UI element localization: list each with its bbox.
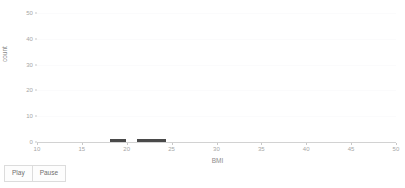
x-tick-mark-10 (37, 143, 38, 145)
x-tick-label-10: 10 (34, 146, 41, 152)
gridline-y-10 (37, 116, 396, 117)
x-tick-mark-50 (396, 143, 397, 145)
x-tick-mark-25 (172, 143, 173, 145)
y-tick-mark-40 (35, 38, 37, 39)
x-tick-label-20: 20 (123, 146, 130, 152)
plot-area (37, 8, 396, 142)
x-tick-label-40: 40 (303, 146, 310, 152)
x-tick-mark-15 (82, 143, 83, 145)
gridline-y-50 (37, 13, 396, 14)
x-tick-label-30: 30 (213, 146, 220, 152)
y-tick-label-40: 40 (26, 36, 33, 42)
playback-controls: Play Pause (4, 165, 66, 182)
x-tick-mark-45 (351, 143, 352, 145)
y-axis: count (0, 0, 37, 160)
x-tick-mark-30 (217, 143, 218, 145)
y-tick-label-30: 30 (26, 62, 33, 68)
play-button[interactable]: Play (4, 165, 33, 182)
y-tick-mark-50 (35, 13, 37, 14)
y-tick-label-10: 10 (26, 113, 33, 119)
y-tick-mark-20 (35, 90, 37, 91)
pause-button[interactable]: Pause (33, 165, 66, 182)
x-tick-mark-35 (261, 143, 262, 145)
histogram-animation-widget: count 01020304050 101520253035404550 BMI… (0, 0, 405, 188)
y-tick-label-0: 0 (30, 139, 33, 145)
x-tick-label-50: 50 (393, 146, 400, 152)
x-tick-mark-20 (127, 143, 128, 145)
y-axis-title: count (1, 46, 8, 62)
x-tick-label-45: 45 (348, 146, 355, 152)
y-tick-label-50: 50 (26, 10, 33, 16)
y-tick-mark-10 (35, 116, 37, 117)
x-tick-mark-40 (306, 143, 307, 145)
y-tick-mark-30 (35, 64, 37, 65)
x-tick-label-15: 15 (78, 146, 85, 152)
x-tick-label-25: 25 (168, 146, 175, 152)
x-axis-title: BMI (0, 157, 405, 164)
gridline-y-30 (37, 65, 396, 66)
chart-figure: count 01020304050 101520253035404550 BMI (0, 0, 405, 160)
gridline-y-20 (37, 90, 396, 91)
x-tick-label-35: 35 (258, 146, 265, 152)
gridline-y-40 (37, 39, 396, 40)
y-tick-label-20: 20 (26, 87, 33, 93)
